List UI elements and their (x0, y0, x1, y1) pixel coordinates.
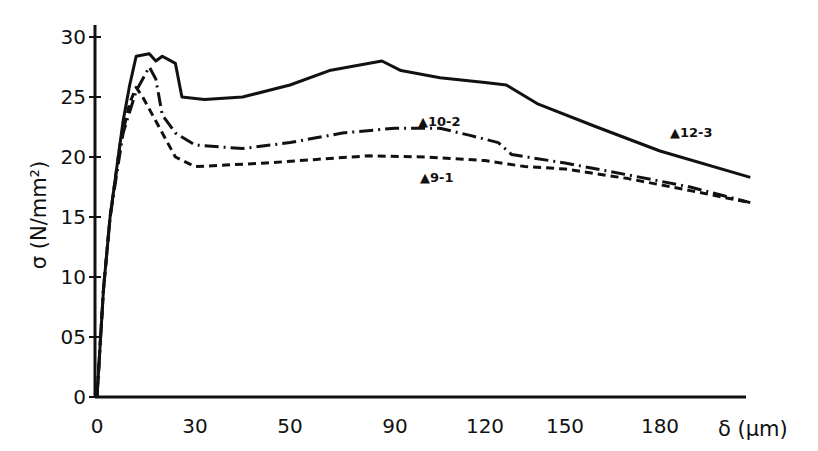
x-tick-label: 50 (277, 414, 302, 438)
stress-displacement-chart: 0051015202530 0305090120150180 σ (N/mm²)… (0, 0, 818, 451)
y-tick-label: 05 (61, 325, 86, 349)
y-tick-label: 25 (61, 85, 86, 109)
series-line (97, 87, 750, 397)
x-axis-title: δ (μm) (718, 417, 788, 441)
series-label-9-1: ▲9-1 (420, 170, 453, 185)
x-tick-label: 0 (91, 414, 104, 438)
series-lines (97, 54, 750, 397)
series-labels: ▲12-3 ▲10-2 ▲9-1 (418, 114, 713, 185)
x-ticks: 0305090120150180 (91, 414, 679, 438)
y-tick-label: 10 (61, 265, 86, 289)
series-line (97, 54, 750, 397)
y-tick-label: 0 (73, 385, 86, 409)
series-label-12-3: ▲12-3 (670, 125, 713, 140)
x-tick-label: 30 (182, 414, 207, 438)
x-tick-label: 120 (466, 414, 504, 438)
y-tick-label: 30 (61, 25, 86, 49)
y-tick-label: 15 (61, 205, 86, 229)
x-tick-label: 150 (546, 414, 584, 438)
x-tick-label: 180 (641, 414, 679, 438)
series-label-10-2: ▲10-2 (418, 114, 461, 129)
x-tick-label: 90 (382, 414, 407, 438)
y-tick-label: 20 (61, 145, 86, 169)
axes (95, 25, 746, 397)
y-axis-title: σ (N/mm²) (27, 161, 51, 270)
